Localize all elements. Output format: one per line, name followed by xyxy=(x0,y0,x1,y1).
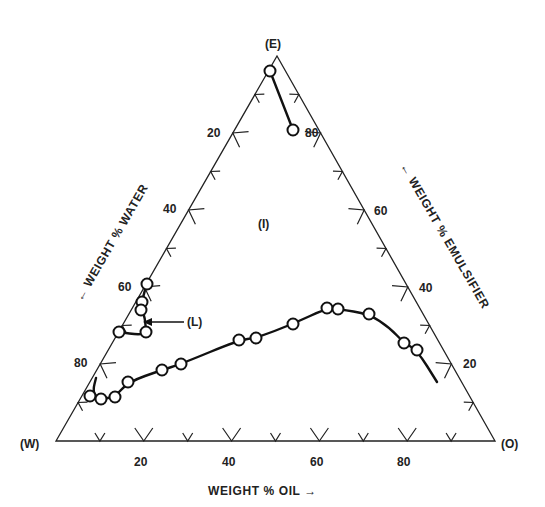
emulsifier-tick-60: 60 xyxy=(374,204,388,218)
water-axis-title: ← WEIGHT % WATER xyxy=(72,182,150,304)
emulsifier-tick-40: 40 xyxy=(419,281,433,295)
data-point-marker xyxy=(110,392,121,403)
vertex-emulsifier-label: (E) xyxy=(265,37,281,51)
emulsifier-axis-tick xyxy=(392,286,408,302)
water-axis-tick xyxy=(189,209,205,225)
water-axis-tick xyxy=(78,402,87,411)
oil-axis-tick xyxy=(135,428,153,441)
data-point-marker xyxy=(157,365,168,376)
oil-tick-80: 80 xyxy=(397,455,411,469)
region-label-liquid-crystal: (L) xyxy=(187,315,202,329)
emulsifier-axis-title: ← WEIGHT % EMULSIFIER xyxy=(397,161,492,312)
oil-axis-tick xyxy=(358,433,368,441)
data-point-marker xyxy=(265,66,276,77)
emulsifier-axis-tick xyxy=(348,209,364,225)
water-tick-60: 60 xyxy=(118,280,132,294)
emulsifier-axis-tick xyxy=(436,363,452,379)
data-point-marker xyxy=(136,305,147,316)
emulsifier-axis-tick xyxy=(333,171,342,180)
emulsifier-axis-tick xyxy=(289,94,298,103)
data-point-marker xyxy=(96,394,107,405)
data-point-marker xyxy=(364,309,375,320)
water-axis-tick xyxy=(100,363,116,379)
oil-axis-tick xyxy=(446,433,456,441)
data-point-marker xyxy=(251,333,262,344)
water-tick-80: 80 xyxy=(74,356,88,370)
vertex-water-label: (W) xyxy=(20,437,39,451)
phase-boundaries xyxy=(94,71,437,399)
data-point-marker xyxy=(412,345,423,356)
data-point-marker xyxy=(85,391,96,402)
data-point-marker xyxy=(234,335,245,346)
data-point-marker xyxy=(176,359,187,370)
emulsifier-axis-tick xyxy=(420,325,429,334)
data-point-marker xyxy=(141,327,152,338)
oil-axis-tick xyxy=(398,428,416,441)
data-point-marker xyxy=(288,125,299,136)
oil-axis-tick xyxy=(271,433,281,441)
vertex-oil-label: (O) xyxy=(501,437,518,451)
region-label-isotropic: (I) xyxy=(258,217,269,231)
boundary-curve xyxy=(270,71,293,130)
oil-axis-tick xyxy=(310,428,328,441)
emulsifier-axis-tick xyxy=(377,248,386,257)
data-point-marker xyxy=(399,338,410,349)
water-axis-tick xyxy=(233,132,249,148)
water-tick-40: 40 xyxy=(163,202,177,216)
oil-axis-tick xyxy=(183,433,193,441)
data-point-marker xyxy=(333,304,344,315)
ternary-phase-diagram: (E) (W) (O) 20 40 60 80 WEIGHT % OIL → 2… xyxy=(0,0,545,507)
emulsifier-tick-20: 20 xyxy=(463,357,477,371)
water-axis-tick xyxy=(167,248,176,257)
oil-axis-tick xyxy=(95,433,105,441)
water-axis-tick xyxy=(255,94,264,103)
emulsifier-tick-80: 80 xyxy=(305,126,319,140)
data-point-marker xyxy=(123,377,134,388)
oil-axis-title: WEIGHT % OIL → xyxy=(208,484,317,498)
oil-tick-20: 20 xyxy=(134,455,148,469)
water-tick-20: 20 xyxy=(207,126,221,140)
oil-tick-60: 60 xyxy=(310,455,324,469)
data-points xyxy=(85,66,423,405)
data-point-marker xyxy=(142,279,153,290)
oil-tick-40: 40 xyxy=(222,455,236,469)
oil-axis-tick xyxy=(223,428,241,441)
water-axis-tick xyxy=(211,171,220,180)
data-point-marker xyxy=(288,319,299,330)
data-point-marker xyxy=(322,303,333,314)
emulsifier-axis-tick xyxy=(464,402,473,411)
data-point-marker xyxy=(114,327,125,338)
axis-ticks xyxy=(78,94,473,441)
